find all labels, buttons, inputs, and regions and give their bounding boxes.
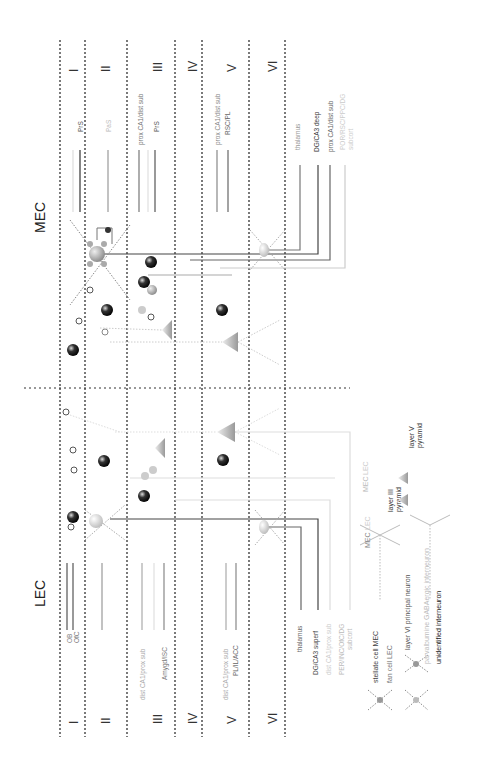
legend-fan: fan cell LEC xyxy=(386,645,393,683)
svg-text:DG/CA3 superf: DG/CA3 superf xyxy=(312,631,320,675)
svg-text:layer III: layer III xyxy=(387,489,395,512)
svg-text:IV: IV xyxy=(186,61,200,72)
svg-text:prox CA1/dist sub: prox CA1/dist sub xyxy=(327,100,335,152)
lec-title: LEC xyxy=(32,580,48,607)
entorhinal-circuit-diagram: MEC LEC I II III IV V VI I II III IV V V… xyxy=(0,0,488,783)
svg-text:VI: VI xyxy=(266,713,280,724)
mec-title: MEC xyxy=(32,202,48,233)
svg-text:III: III xyxy=(151,714,165,724)
svg-text:III: III xyxy=(151,62,165,72)
svg-text:PrS: PrS xyxy=(153,121,160,133)
stellate-cell-mec xyxy=(70,220,130,305)
mec-projection-labels: PrS PaS prox CA1/dist sub PrS prox CA1/d… xyxy=(77,93,354,152)
svg-text:prox CA1/dist sub: prox CA1/dist sub xyxy=(137,93,145,145)
layer-boundaries xyxy=(60,40,285,737)
svg-text:dist CA1/prox sub: dist CA1/prox sub xyxy=(222,648,230,700)
svg-text:POR/RSC/PPC/DG: POR/RSC/PPC/DG xyxy=(339,94,346,150)
svg-text:I: I xyxy=(67,69,81,72)
mec-projection-bars xyxy=(73,150,228,212)
svg-text:dist CA1/prox sub: dist CA1/prox sub xyxy=(139,648,147,700)
svg-text:PER/INC/OfC/DG: PER/INC/OfC/DG xyxy=(338,624,345,675)
legend-unidentified: unidentified interneuron xyxy=(435,591,442,664)
lec-neurons xyxy=(63,408,285,545)
svg-text:IV: IV xyxy=(186,713,200,724)
lec-projection-labels: OB OfC dist CA1/prox sub Amygd/ISC dist … xyxy=(66,623,353,700)
lec-projection-bars xyxy=(67,563,236,630)
legend-layer6: layer VI principal neuron xyxy=(404,574,412,650)
svg-text:DG/CA3 deep: DG/CA3 deep xyxy=(313,111,321,152)
svg-text:pyramid: pyramid xyxy=(416,423,424,448)
svg-text:PaS: PaS xyxy=(105,119,112,132)
svg-text:MEC: MEC xyxy=(362,476,369,492)
svg-text:LEC: LEC xyxy=(362,461,369,475)
legend: stellate cell MEC fan cell LEC layer VI … xyxy=(360,423,450,710)
svg-text:RSC/PL: RSC/PL xyxy=(224,111,231,135)
svg-text:PL/IL/ACC: PL/IL/ACC xyxy=(232,645,239,676)
svg-text:V: V xyxy=(225,716,239,724)
svg-text:II: II xyxy=(99,65,113,72)
svg-text:OB: OB xyxy=(66,634,73,643)
svg-text:subcort: subcort xyxy=(347,128,354,150)
svg-text:MEC: MEC xyxy=(364,532,371,548)
svg-text:prox CA1/dist sub: prox CA1/dist sub xyxy=(214,93,222,145)
svg-text:II: II xyxy=(99,717,113,724)
svg-text:thalamus: thalamus xyxy=(296,625,303,652)
svg-text:layer V: layer V xyxy=(408,426,416,448)
svg-text:subcort: subcort xyxy=(346,628,353,650)
mec-neurons xyxy=(67,220,285,365)
svg-text:PrS: PrS xyxy=(77,121,84,133)
mec-layer-numerals: I II III IV V VI xyxy=(67,61,280,72)
svg-text:I: I xyxy=(67,721,81,724)
svg-text:V: V xyxy=(225,64,239,72)
svg-text:VI: VI xyxy=(266,61,280,72)
svg-text:Amygd/ISC: Amygd/ISC xyxy=(161,647,169,680)
lec-layer6-outputs xyxy=(110,432,350,610)
svg-text:OfC: OfC xyxy=(73,631,80,643)
svg-text:LEC: LEC xyxy=(364,516,371,530)
svg-text:dist CA1/prox sub: dist CA1/prox sub xyxy=(325,623,333,675)
legend-stellate: stellate cell MEC xyxy=(372,631,379,683)
svg-text:thalamus: thalamus xyxy=(294,123,301,150)
lec-layer-numerals: I II III IV V VI xyxy=(67,713,280,724)
